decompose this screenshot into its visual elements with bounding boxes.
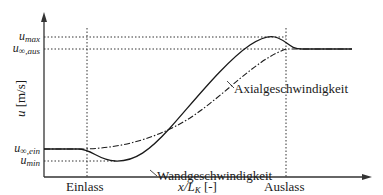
y-axis-arrow-icon (41, 12, 47, 22)
velocity-profile-figure: umax u∞,aus u∞,ein umin u [m/s] Einlass … (0, 0, 383, 195)
annotation-wall-velocity: Wandgeschwindigkeit (157, 169, 272, 182)
x-tick-einlass: Einlass (66, 180, 104, 193)
wall-velocity-curve (44, 37, 352, 161)
x-axis-arrow-icon (362, 174, 372, 180)
y-axis-title: u [m/s] (14, 77, 27, 121)
reference-lines-horizontal (44, 37, 286, 161)
axial-velocity-curve (44, 49, 352, 149)
wall-leader-line (150, 170, 157, 176)
chart-canvas (0, 0, 383, 195)
y-tick-uaus: u∞,aus (0, 42, 40, 56)
annotation-axial-velocity: Axialgeschwindigkeit (234, 82, 348, 95)
reference-lines-vertical (87, 28, 286, 177)
axial-leader-line (227, 81, 234, 88)
y-tick-umin: umin (0, 154, 40, 168)
